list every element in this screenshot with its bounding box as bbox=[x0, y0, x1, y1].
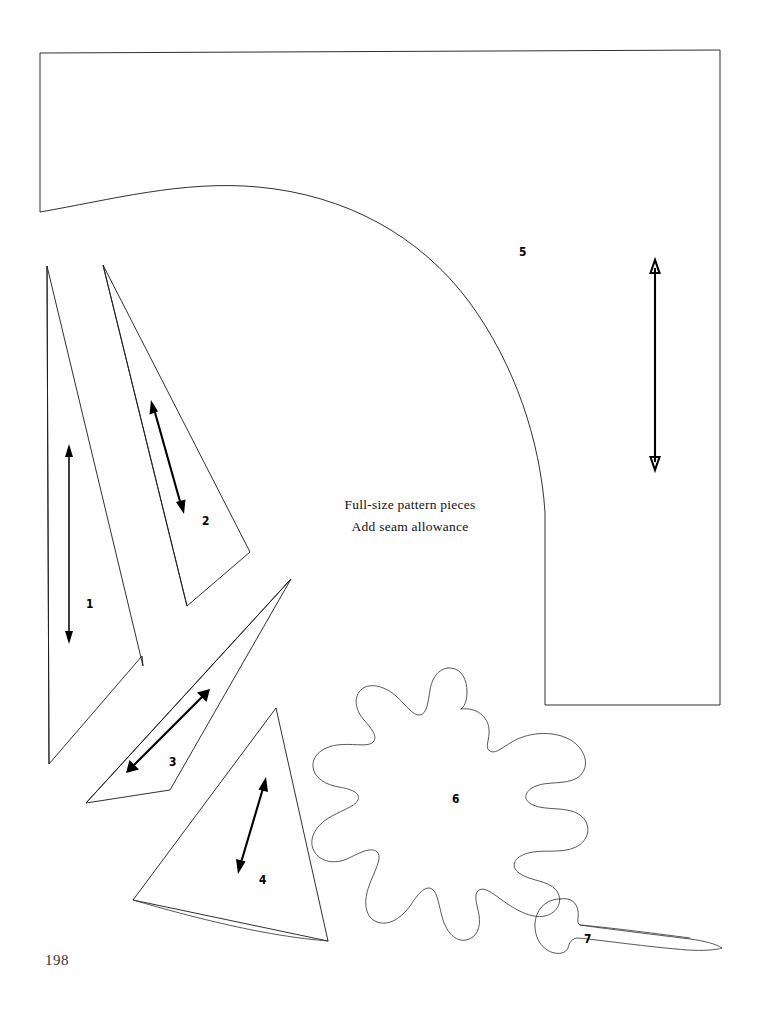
piece-7-group[interactable] bbox=[535, 899, 722, 954]
piece-4-group[interactable] bbox=[133, 708, 328, 941]
piece-5-group[interactable] bbox=[40, 50, 720, 705]
piece-6-outline[interactable] bbox=[312, 668, 588, 940]
piece-7-inner-edge bbox=[580, 925, 690, 938]
piece-3-grainline bbox=[126, 689, 210, 773]
piece-3-group[interactable] bbox=[86, 579, 291, 803]
piece-2-outline[interactable] bbox=[103, 265, 250, 606]
caption-line-1: Full-size pattern pieces bbox=[320, 494, 500, 516]
piece-label-6: 6 bbox=[452, 792, 459, 805]
piece-1-grainline bbox=[65, 444, 73, 644]
piece-label-3: 3 bbox=[169, 755, 176, 768]
piece-7-outline[interactable] bbox=[535, 899, 722, 954]
caption-line-2: Add seam allowance bbox=[320, 516, 500, 538]
piece-5-outline[interactable] bbox=[40, 50, 720, 705]
piece-label-5: 5 bbox=[519, 245, 526, 258]
piece-2-outline-detail bbox=[103, 265, 187, 606]
piece-2-group[interactable] bbox=[103, 265, 250, 606]
piece-label-7: 7 bbox=[584, 932, 591, 945]
piece-1-group[interactable] bbox=[47, 266, 143, 764]
piece-label-1: 1 bbox=[86, 597, 93, 610]
piece-1-outline[interactable] bbox=[47, 266, 143, 764]
page-number: 198 bbox=[45, 952, 69, 969]
pattern-sheet-page: 1 2 3 4 5 6 7 Full-size pattern pieces A… bbox=[0, 0, 761, 1017]
piece-4-outline[interactable] bbox=[133, 708, 328, 941]
piece-3-outline-detail bbox=[86, 579, 291, 803]
piece-label-2: 2 bbox=[202, 514, 209, 527]
piece-2-grainline bbox=[150, 400, 186, 514]
piece-1-outline-detail bbox=[47, 266, 49, 764]
pattern-caption: Full-size pattern pieces Add seam allowa… bbox=[320, 494, 500, 538]
piece-5-grainline bbox=[651, 260, 660, 470]
piece-label-4: 4 bbox=[259, 873, 266, 886]
piece-4-grainline bbox=[236, 777, 268, 874]
piece-6-group[interactable] bbox=[312, 668, 588, 940]
